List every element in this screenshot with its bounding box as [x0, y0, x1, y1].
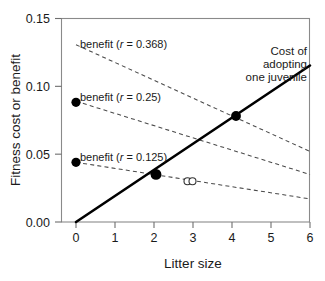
- data-point-filled: [151, 169, 162, 180]
- y-tick-label: 0.15: [26, 12, 50, 26]
- y-tick-label: 0.10: [26, 80, 50, 94]
- y-tick-label: 0.00: [26, 216, 50, 230]
- data-point-open-double: [184, 178, 196, 185]
- x-tick-label: 4: [229, 231, 236, 245]
- x-tick-label: 2: [151, 231, 158, 245]
- benefit-r-0368-label: benefit (r = 0.368): [80, 38, 167, 50]
- x-tick-label: 6: [307, 231, 314, 245]
- y-axis-ticks: [55, 19, 62, 223]
- cost-label-line-2: adopting: [263, 58, 307, 70]
- x-tick-label: 1: [112, 231, 119, 245]
- cost-of-adopting-line: [76, 66, 310, 223]
- x-tick-label: 0: [73, 231, 80, 245]
- benefit-line-r-025: [76, 101, 310, 174]
- cost-label-line-3: one juvenile: [246, 71, 307, 83]
- y-axis-tick-labels: 0.00 0.05 0.10 0.15: [26, 12, 50, 230]
- benefit-r-0125-label: benefit (r = 0.125): [80, 151, 167, 163]
- x-axis-ticks: [76, 222, 310, 228]
- fitness-cost-benefit-chart: 0 1 2 3 4 5 6 0.00 0.05 0.10 0.15 Litter…: [0, 0, 325, 281]
- x-tick-label: 3: [190, 231, 197, 245]
- benefit-r-025-label: benefit (r = 0.25): [80, 91, 161, 103]
- x-axis-tick-labels: 0 1 2 3 4 5 6: [73, 231, 314, 245]
- cost-of-adopting-label: Cost of adopting one juvenile: [246, 45, 308, 83]
- data-point-filled: [231, 111, 241, 121]
- y-tick-label: 0.05: [26, 148, 50, 162]
- cost-label-line-1: Cost of: [271, 45, 308, 57]
- x-tick-label: 5: [268, 231, 275, 245]
- y-axis-title: Fitness cost or benefit: [8, 54, 23, 186]
- chart-figure: 0 1 2 3 4 5 6 0.00 0.05 0.10 0.15 Litter…: [0, 0, 325, 281]
- x-axis-title: Litter size: [164, 256, 222, 271]
